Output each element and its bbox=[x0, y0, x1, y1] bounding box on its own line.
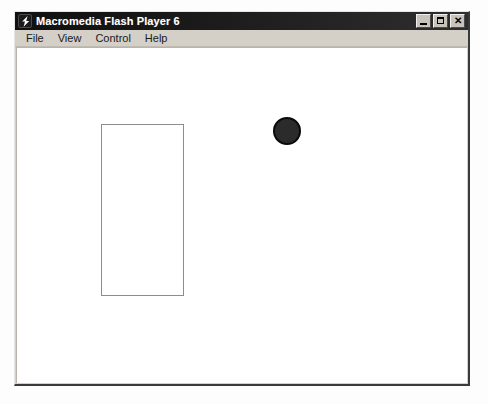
menu-item-view[interactable]: View bbox=[53, 31, 91, 46]
window-title: Macromedia Flash Player 6 bbox=[36, 12, 180, 30]
maximize-icon bbox=[437, 17, 444, 24]
flash-player-window: Macromedia Flash Player 6 ✕ File View Co… bbox=[14, 11, 470, 386]
minimize-button[interactable] bbox=[416, 14, 431, 28]
minimize-icon bbox=[420, 23, 427, 25]
menu-bar: File View Control Help bbox=[15, 30, 468, 47]
flash-stage[interactable] bbox=[16, 47, 467, 383]
stage-shape-ball[interactable] bbox=[273, 117, 301, 145]
maximize-button[interactable] bbox=[433, 14, 448, 28]
close-button[interactable]: ✕ bbox=[450, 14, 465, 28]
menu-item-control[interactable]: Control bbox=[90, 31, 139, 46]
stage-shape-rectangle[interactable] bbox=[101, 124, 184, 296]
flash-bolt-icon bbox=[18, 14, 32, 28]
window-controls: ✕ bbox=[416, 14, 466, 28]
menu-item-help[interactable]: Help bbox=[140, 31, 177, 46]
close-icon: ✕ bbox=[451, 15, 464, 27]
menu-item-file[interactable]: File bbox=[21, 31, 53, 46]
stage-container bbox=[15, 47, 468, 384]
title-bar[interactable]: Macromedia Flash Player 6 ✕ bbox=[15, 12, 468, 30]
